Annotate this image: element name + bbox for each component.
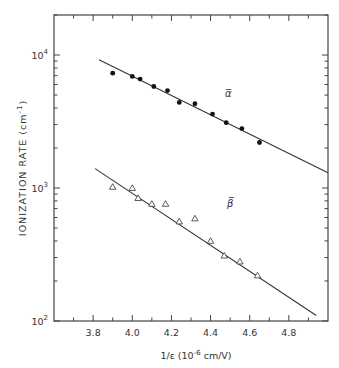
alpha-data-point <box>165 88 170 93</box>
plot-frame <box>54 15 328 321</box>
alpha-data-point <box>130 74 135 79</box>
alpha-data-point <box>224 120 229 125</box>
series-label-beta: β̅ <box>226 197 235 209</box>
beta-data-point <box>162 201 168 207</box>
alpha-data-point <box>257 140 262 145</box>
y-tick-label: 102 <box>31 314 48 327</box>
alpha-data-point <box>239 126 244 131</box>
alpha-data-point <box>138 77 143 82</box>
y-tick-label: 104 <box>31 48 48 61</box>
beta-data-point <box>129 185 135 191</box>
alpha-data-point <box>151 84 156 89</box>
x-tick-label: 4.6 <box>242 327 257 338</box>
series-label-alpha: α̅ <box>225 88 232 99</box>
ionization-rate-chart: 3.84.04.24.44.64.81021031041/ε (10-6 cm/… <box>0 0 339 368</box>
alpha-data-point <box>193 101 198 106</box>
x-tick-label: 4.0 <box>125 327 140 338</box>
alpha-data-point <box>177 100 182 105</box>
data-points <box>110 71 262 278</box>
beta-data-point <box>110 184 116 190</box>
x-axis-label: 1/ε (10-6 cm/V) <box>160 349 231 361</box>
beta-data-point <box>237 258 243 264</box>
y-axis-label: IONIZATION RATE (cm-1) <box>16 100 28 236</box>
y-tick-label: 103 <box>31 181 48 194</box>
plot-axes <box>54 15 328 321</box>
beta-data-point <box>192 215 198 221</box>
beta-data-point <box>176 218 182 224</box>
x-tick-label: 3.8 <box>86 327 101 338</box>
fit-lines <box>95 60 328 316</box>
axis-ticks <box>54 15 328 321</box>
beta-data-point <box>207 238 213 244</box>
axis-labels: 3.84.04.24.44.64.81021031041/ε (10-6 cm/… <box>16 48 296 361</box>
fit-line-beta <box>95 169 316 316</box>
x-tick-label: 4.8 <box>281 327 296 338</box>
x-tick-label: 4.2 <box>164 327 179 338</box>
beta-data-point <box>149 201 155 207</box>
alpha-data-point <box>210 112 215 117</box>
alpha-data-point <box>110 71 115 76</box>
x-tick-label: 4.4 <box>203 327 218 338</box>
